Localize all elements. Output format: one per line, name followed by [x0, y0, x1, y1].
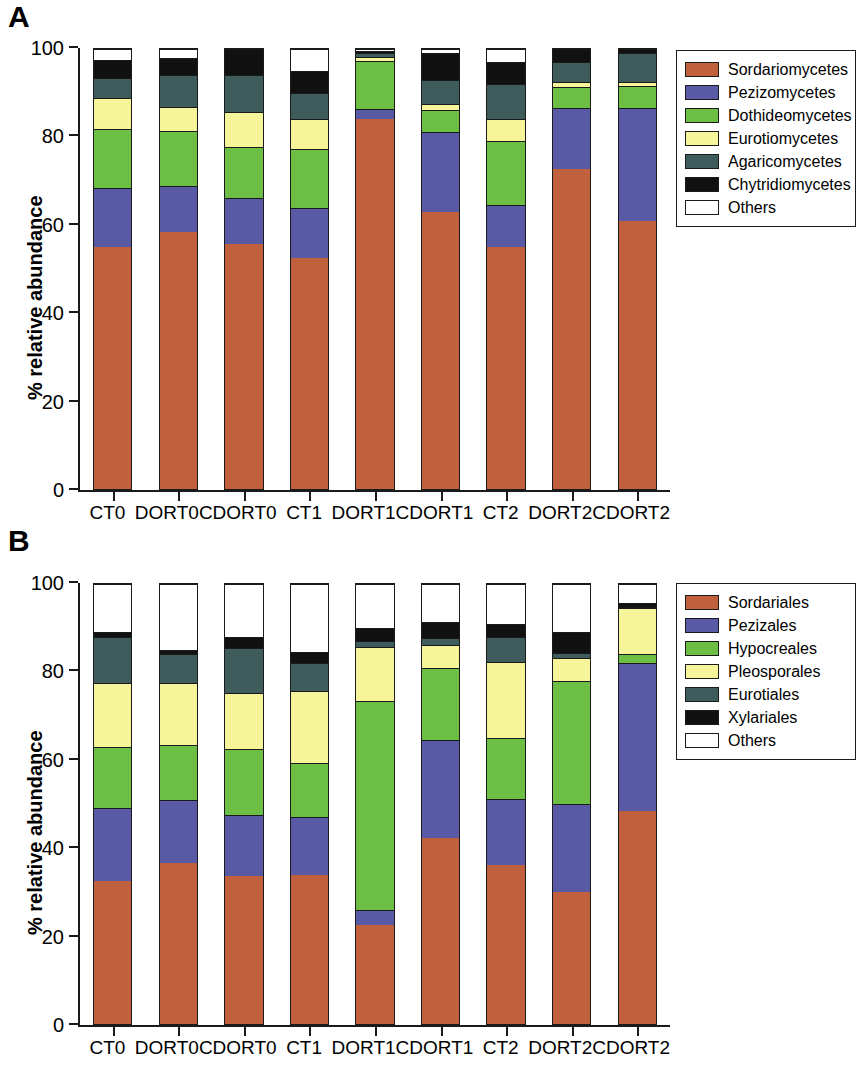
- bar-segment: [291, 49, 328, 71]
- bar-segment: [619, 108, 656, 221]
- legend-item[interactable]: Agaricomycetes: [685, 150, 845, 173]
- bar-segment: [487, 49, 524, 62]
- legend-swatch-icon: [685, 595, 719, 610]
- bar-segment: [94, 129, 131, 188]
- stacked-bar[interactable]: [486, 48, 525, 490]
- panel-a-letter: A: [8, 2, 30, 32]
- stacked-bar[interactable]: [618, 48, 657, 490]
- legend-item[interactable]: Eurotiales: [685, 683, 845, 706]
- panel-a-y-tick: [69, 311, 78, 313]
- legend-item[interactable]: Eurotiomycetes: [685, 127, 845, 150]
- bar-segment: [225, 147, 262, 198]
- bar-slot: [605, 48, 671, 490]
- bar-segment: [94, 881, 131, 1024]
- bar-segment: [160, 863, 197, 1024]
- stacked-bar[interactable]: [290, 583, 329, 1025]
- x-tick: [113, 492, 115, 501]
- legend-swatch-icon: [685, 177, 719, 192]
- bar-segment: [553, 108, 590, 169]
- x-tick: [375, 1027, 377, 1036]
- panel-b-y-tick: [69, 758, 78, 760]
- legend-item[interactable]: Chytridiomycetes: [685, 173, 845, 196]
- legend-item[interactable]: Sordariales: [685, 591, 845, 614]
- bar-segment: [225, 244, 262, 489]
- bar-segment: [291, 119, 328, 150]
- legend-item[interactable]: Others: [685, 729, 845, 752]
- bar-segment: [356, 910, 393, 926]
- legend-item[interactable]: Hypocreales: [685, 637, 845, 660]
- bar-segment: [291, 652, 328, 663]
- bar-segment: [422, 668, 459, 740]
- bar-segment: [487, 662, 524, 739]
- bar-segment: [487, 624, 524, 638]
- bar-slot: [408, 583, 474, 1025]
- legend-item-label: Sordariales: [728, 595, 809, 611]
- x-tick-label: DORT0: [135, 1037, 199, 1059]
- x-tick: [506, 1027, 508, 1036]
- panel-b-y-tick: [69, 581, 78, 583]
- stacked-bar[interactable]: [618, 583, 657, 1025]
- panel-b: B % relative abundance 020406080100 CT0D…: [0, 520, 860, 1065]
- stacked-bar[interactable]: [421, 48, 460, 490]
- panel-a-bars: [80, 48, 670, 490]
- legend-item[interactable]: Sordariomycetes: [685, 58, 845, 81]
- stacked-bar[interactable]: [224, 583, 263, 1025]
- bar-segment: [94, 584, 131, 632]
- bar-segment: [225, 637, 262, 648]
- legend-item[interactable]: Pezizomycetes: [685, 81, 845, 104]
- bar-segment: [487, 637, 524, 662]
- stacked-bar[interactable]: [355, 583, 394, 1025]
- bar-segment: [356, 119, 393, 489]
- bar-segment: [94, 637, 131, 683]
- bar-segment: [553, 584, 590, 632]
- legend-item[interactable]: Others: [685, 196, 845, 219]
- bar-segment: [422, 838, 459, 1024]
- bar-segment: [356, 628, 393, 641]
- bar-segment: [94, 60, 131, 78]
- stacked-bar[interactable]: [290, 48, 329, 490]
- stacked-bar[interactable]: [552, 48, 591, 490]
- bar-segment: [487, 738, 524, 799]
- legend-item-label: Others: [728, 200, 776, 216]
- panel-a-y-tick-label: 80: [4, 125, 64, 148]
- legend-swatch-icon: [685, 733, 719, 748]
- bar-segment: [487, 205, 524, 247]
- bar-segment: [225, 49, 262, 75]
- stacked-bar[interactable]: [159, 48, 198, 490]
- bar-segment: [422, 645, 459, 668]
- bar-segment: [553, 62, 590, 82]
- bar-segment: [94, 188, 131, 247]
- bar-segment: [291, 71, 328, 93]
- x-tick-label: CT2: [473, 1037, 528, 1059]
- panel-b-y-tick: [69, 935, 78, 937]
- bar-slot: [605, 583, 671, 1025]
- stacked-bar[interactable]: [421, 583, 460, 1025]
- panel-a-y-tick: [69, 46, 78, 48]
- legend-item-label: Others: [728, 733, 776, 749]
- x-tick: [309, 1027, 311, 1036]
- panel-b-y-tick-label: 100: [4, 572, 64, 595]
- legend-item[interactable]: Pezizales: [685, 614, 845, 637]
- legend-swatch-icon: [685, 154, 719, 169]
- stacked-bar[interactable]: [93, 583, 132, 1025]
- legend-swatch-icon: [685, 62, 719, 77]
- panel-a-y-tick: [69, 488, 78, 490]
- legend-item[interactable]: Pleosporales: [685, 660, 845, 683]
- legend-item[interactable]: Xylariales: [685, 706, 845, 729]
- legend-swatch-icon: [685, 710, 719, 725]
- bar-slot: [408, 48, 474, 490]
- stacked-bar[interactable]: [486, 583, 525, 1025]
- legend-item-label: Pezizales: [728, 618, 796, 634]
- bar-segment: [291, 93, 328, 119]
- legend-swatch-icon: [685, 200, 719, 215]
- stacked-bar[interactable]: [159, 583, 198, 1025]
- panel-a-y-tick-label: 60: [4, 213, 64, 236]
- bar-segment: [553, 804, 590, 891]
- stacked-bar[interactable]: [552, 583, 591, 1025]
- panel-b-y-tick-label: 60: [4, 748, 64, 771]
- stacked-bar[interactable]: [93, 48, 132, 490]
- legend-item[interactable]: Dothideomycetes: [685, 104, 845, 127]
- stacked-bar[interactable]: [355, 48, 394, 490]
- stacked-bar[interactable]: [224, 48, 263, 490]
- bar-segment: [553, 87, 590, 108]
